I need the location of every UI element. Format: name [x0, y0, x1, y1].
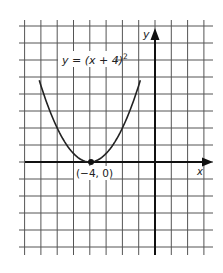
parabola-graph: y = (x + 4)2 (−4, 0) x y — [0, 0, 223, 273]
y-axis-arrow-icon — [151, 28, 160, 40]
x-axis-label: x — [196, 166, 203, 177]
equation-label: y = (x + 4)2 — [61, 52, 128, 67]
y-axis-label: y — [142, 28, 150, 41]
vertex-label: (−4, 0) — [76, 167, 113, 179]
vertex-point — [88, 159, 94, 165]
x-axis-arrow-icon — [202, 158, 213, 167]
